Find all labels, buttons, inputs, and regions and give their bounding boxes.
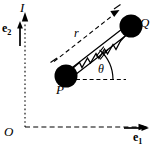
- basis-vector-e1-subscript: 1: [138, 137, 142, 146]
- mass-p-label: P: [56, 83, 64, 96]
- basis-vector-e2-label: e2: [2, 22, 11, 38]
- angle-theta-label: θ: [98, 63, 104, 75]
- dimension-r-arrowhead: [110, 10, 119, 17]
- dimension-r-end-tick: [114, 5, 121, 10]
- dimension-r-group: [51, 5, 121, 63]
- separation-length-label: r: [74, 27, 79, 39]
- basis-vector-e2-subscript: 2: [7, 28, 11, 37]
- basis-vector-e1-label: e1: [133, 131, 142, 147]
- mass-q-label: Q: [140, 16, 149, 29]
- origin-label: O: [4, 125, 13, 138]
- vertical-axis-label: I: [20, 1, 24, 14]
- basis-vector-e1-arrowhead: [142, 125, 150, 131]
- diagram-svg: [0, 0, 158, 148]
- spring-lead-out: [121, 36, 126, 42]
- dimension-r-shaft: [54, 14, 115, 62]
- figure-canvas: I e2 e1 O P Q r θ: [0, 0, 158, 148]
- basis-vector-e2-arrowhead: [17, 21, 23, 29]
